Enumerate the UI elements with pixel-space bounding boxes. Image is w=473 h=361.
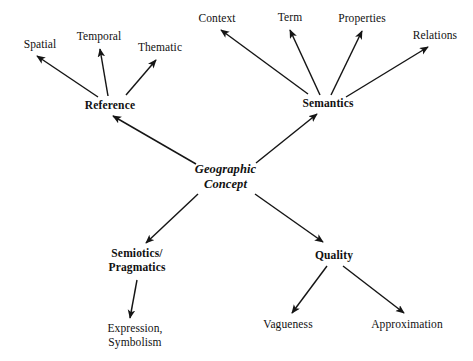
edge-quality-to-approximation — [343, 266, 404, 313]
node-relations: Relations — [405, 29, 465, 43]
node-quality: Quality — [303, 249, 365, 263]
edge-center-to-semantics — [256, 114, 317, 163]
node-reference: Reference — [70, 99, 150, 113]
node-semantics: Semantics — [288, 97, 368, 111]
edge-reference-to-thematic — [126, 60, 156, 95]
edge-semiotics-to-expression — [130, 280, 137, 318]
node-semiotics-pragmatics: Semiotics/ Pragmatics — [101, 247, 173, 274]
node-properties: Properties — [330, 12, 394, 26]
edge-reference-to-spatial — [37, 56, 98, 97]
node-thematic: Thematic — [131, 41, 189, 55]
node-context: Context — [190, 12, 244, 26]
node-temporal: Temporal — [68, 30, 130, 44]
concept-map-diagram: Geographic Concept Reference Semantics S… — [0, 0, 473, 361]
node-expression-symbolism: Expression, Symbolism — [96, 322, 174, 349]
edge-center-to-reference — [113, 116, 196, 164]
node-vagueness: Vagueness — [256, 318, 320, 332]
node-geographic-concept: Geographic Concept — [178, 162, 273, 192]
edge-center-to-semiotics — [146, 194, 198, 243]
edge-semantics-to-properties — [331, 31, 362, 95]
edge-center-to-quality — [255, 194, 323, 242]
node-approximation: Approximation — [366, 318, 448, 332]
node-term: Term — [268, 11, 312, 25]
edge-quality-to-vagueness — [292, 266, 327, 313]
edge-semantics-to-term — [290, 30, 320, 95]
edge-semantics-to-relations — [346, 47, 428, 97]
node-spatial: Spatial — [12, 38, 68, 52]
edge-reference-to-temporal — [100, 49, 108, 96]
